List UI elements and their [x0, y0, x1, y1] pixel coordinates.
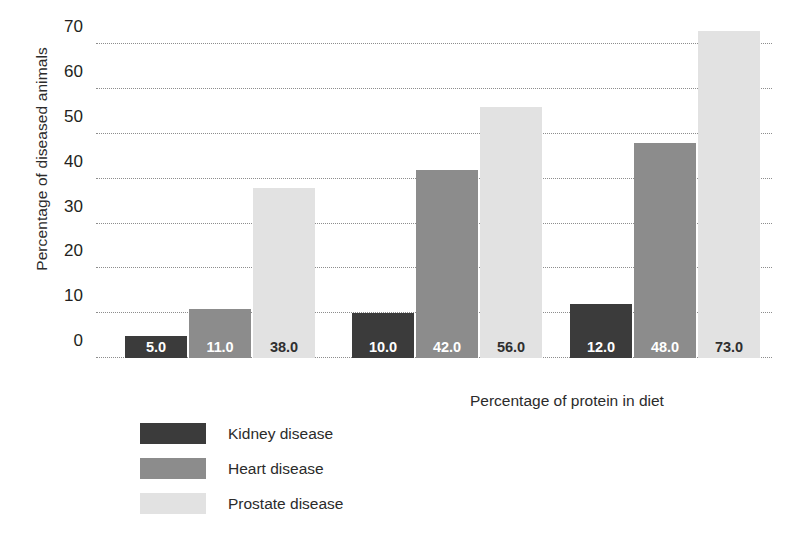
legend-label: Heart disease — [228, 460, 324, 478]
bar-value-label: 5.0 — [125, 340, 187, 355]
bar[interactable]: 56.0 — [480, 107, 542, 358]
legend-swatch — [140, 423, 206, 444]
bar-value-label: 73.0 — [698, 340, 760, 355]
bar-value-label: 48.0 — [634, 340, 696, 355]
gridline — [96, 43, 772, 44]
legend-item[interactable]: Heart disease — [140, 451, 343, 486]
bar[interactable]: 12.0 — [570, 304, 632, 358]
y-axis-tick-label: 20 — [64, 242, 83, 259]
y-axis-tick-label: 60 — [64, 63, 83, 80]
x-axis-title: Percentage of protein in diet — [470, 392, 664, 410]
bar[interactable]: 5.0 — [125, 336, 187, 358]
y-axis-tick-label: 10 — [64, 287, 83, 304]
gridline — [96, 88, 772, 89]
bar[interactable]: 42.0 — [416, 170, 478, 358]
y-axis-tick-label: 0 — [74, 332, 83, 349]
bar-value-label: 56.0 — [480, 340, 542, 355]
y-axis-tick-label: 70 — [64, 18, 83, 35]
legend-item[interactable]: Prostate disease — [140, 486, 343, 521]
legend: Kidney diseaseHeart diseaseProstate dise… — [140, 416, 343, 521]
plot-area: 010203040506070 5.011.038.010.042.056.01… — [96, 22, 772, 358]
bar[interactable]: 48.0 — [634, 143, 696, 358]
gridline — [96, 133, 772, 134]
legend-swatch — [140, 493, 206, 514]
bar[interactable]: 10.0 — [352, 313, 414, 358]
y-axis-tick-label: 30 — [64, 197, 83, 214]
y-axis-tick-label: 40 — [64, 153, 83, 170]
legend-label: Kidney disease — [228, 425, 333, 443]
bar-value-label: 42.0 — [416, 340, 478, 355]
y-axis-tick-label: 50 — [64, 108, 83, 125]
bar[interactable]: 38.0 — [253, 188, 315, 358]
bar[interactable]: 73.0 — [698, 31, 760, 358]
legend-swatch — [140, 458, 206, 479]
legend-label: Prostate disease — [228, 495, 343, 513]
bar-value-label: 11.0 — [189, 340, 251, 355]
bar-value-label: 10.0 — [352, 340, 414, 355]
y-axis-title: Percentage of diseased animals — [33, 0, 51, 319]
bar-value-label: 12.0 — [570, 340, 632, 355]
bar-chart: Percentage of diseased animals 010203040… — [0, 0, 804, 542]
bar-value-label: 38.0 — [253, 340, 315, 355]
bar[interactable]: 11.0 — [189, 309, 251, 358]
legend-item[interactable]: Kidney disease — [140, 416, 343, 451]
